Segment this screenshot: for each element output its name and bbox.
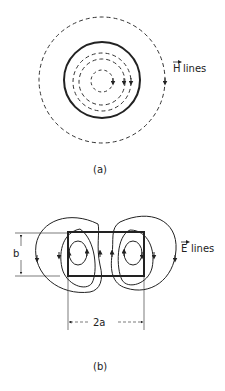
diagram-canvas: H lines (a) xyxy=(0,0,225,391)
dim-2a-label: 2a xyxy=(93,317,106,328)
h-lines-label: lines xyxy=(183,63,206,74)
e-field-loop-left-middle xyxy=(61,229,95,287)
caption-a: (a) xyxy=(93,164,107,175)
inner-h-field-line-1 xyxy=(73,53,131,111)
caption-b: (b) xyxy=(93,361,107,372)
figure-b-labels: b 2a E lines (b) xyxy=(10,242,214,372)
e-lines-label: lines xyxy=(191,243,214,254)
e-field-loop-left-inner xyxy=(69,241,87,265)
h-symbol: H xyxy=(173,63,181,74)
figure-b xyxy=(15,216,176,330)
e-field-loop-right-inner xyxy=(124,241,142,265)
outer-h-field-line xyxy=(39,17,165,143)
waveguide-cross-section xyxy=(68,232,144,276)
dim-b-label: b xyxy=(13,248,19,259)
inner-h-field-line-2 xyxy=(79,59,125,105)
e-symbol: E xyxy=(181,243,187,254)
inner-h-field-line-3 xyxy=(91,70,113,92)
figure-a: H lines (a) xyxy=(39,17,206,175)
